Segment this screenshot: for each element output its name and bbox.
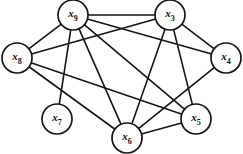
graph-node-x9[interactable]: x9 xyxy=(58,0,88,30)
graph-edge-x9-x4 xyxy=(86,19,212,54)
graph-node-x3[interactable]: x3 xyxy=(155,0,185,30)
graph-node-x7[interactable]: x7 xyxy=(42,104,72,134)
graph-node-x6[interactable]: x6 xyxy=(112,123,142,153)
graph-edge-x3-x5 xyxy=(173,29,192,106)
graph-edge-x3-x4 xyxy=(181,24,215,50)
graph-edge-x3-x8 xyxy=(30,19,156,54)
graph-node-x5[interactable]: x5 xyxy=(181,104,211,134)
graph-canvas: x9x3x8x4x7x6x5 xyxy=(0,0,243,154)
graph-node-x4[interactable]: x4 xyxy=(211,43,241,73)
graph-edge-x9-x5 xyxy=(84,24,186,110)
graph-node-x8[interactable]: x8 xyxy=(2,43,32,73)
graph-diagram: x9x3x8x4x7x6x5 xyxy=(0,0,243,154)
graph-edge-x9-x8 xyxy=(28,24,62,50)
graph-edge-x9-x6 xyxy=(79,28,122,125)
node-layer: x9x3x8x4x7x6x5 xyxy=(2,0,241,153)
graph-edge-x5-x6 xyxy=(140,123,182,135)
